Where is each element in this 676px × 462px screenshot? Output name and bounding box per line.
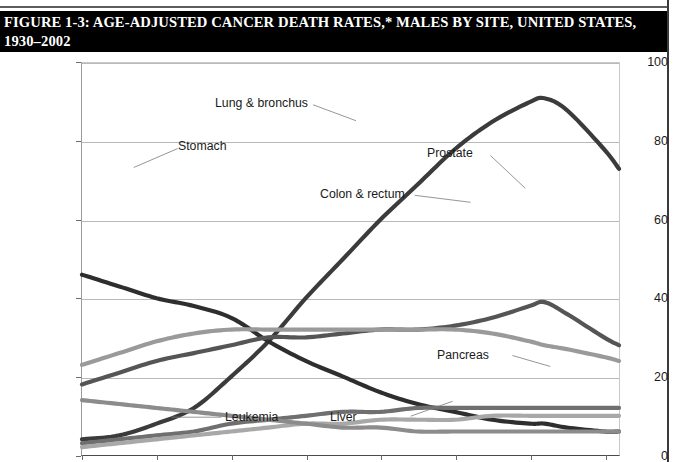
leader-line-lung (313, 105, 356, 121)
chart-container: Rate per 100,000 male population 0204060… (0, 52, 668, 462)
annotation-stomach: Stomach (178, 139, 227, 153)
x-tick-mark-1940 (157, 455, 158, 460)
leader-line-liver (411, 401, 453, 416)
x-tick-mark-2000 (606, 455, 607, 460)
annotation-prostate: Prostate (427, 146, 473, 160)
leader-line-colon (415, 195, 471, 202)
x-tick-mark-1950 (232, 455, 233, 460)
x-tick-mark-1930 (82, 455, 83, 460)
x-tick-mark-1970 (381, 455, 382, 460)
page-top-rule (0, 6, 668, 8)
annotation-colon: Colon & rectum (320, 187, 405, 201)
annotation-liver: Liver (330, 410, 357, 424)
plot-area: Stomach Lung & bronchus Colon & rectum P… (81, 62, 620, 456)
y-tick-mark-0 (76, 456, 81, 457)
leader-line-pancreas (512, 356, 550, 367)
x-tick-mark-1980 (456, 455, 457, 460)
leader-line-prostate (490, 156, 525, 189)
annotation-lung: Lung & bronchus (215, 96, 308, 110)
leader-line-stomach (134, 149, 178, 168)
x-tick-mark-1990 (531, 455, 532, 460)
annotation-leader-lines (82, 63, 619, 455)
figure-title: FIGURE 1-3: AGE-ADJUSTED CANCER DEATH RA… (4, 13, 662, 50)
annotation-pancreas: Pancreas (437, 348, 489, 362)
x-tick-mark-1960 (307, 455, 308, 460)
figure-title-banner: FIGURE 1-3: AGE-ADJUSTED CANCER DEATH RA… (0, 11, 668, 52)
annotation-leukemia: Leukemia (225, 410, 278, 424)
y-axis-label-wrap: Rate per 100,000 male population (14, 62, 34, 456)
